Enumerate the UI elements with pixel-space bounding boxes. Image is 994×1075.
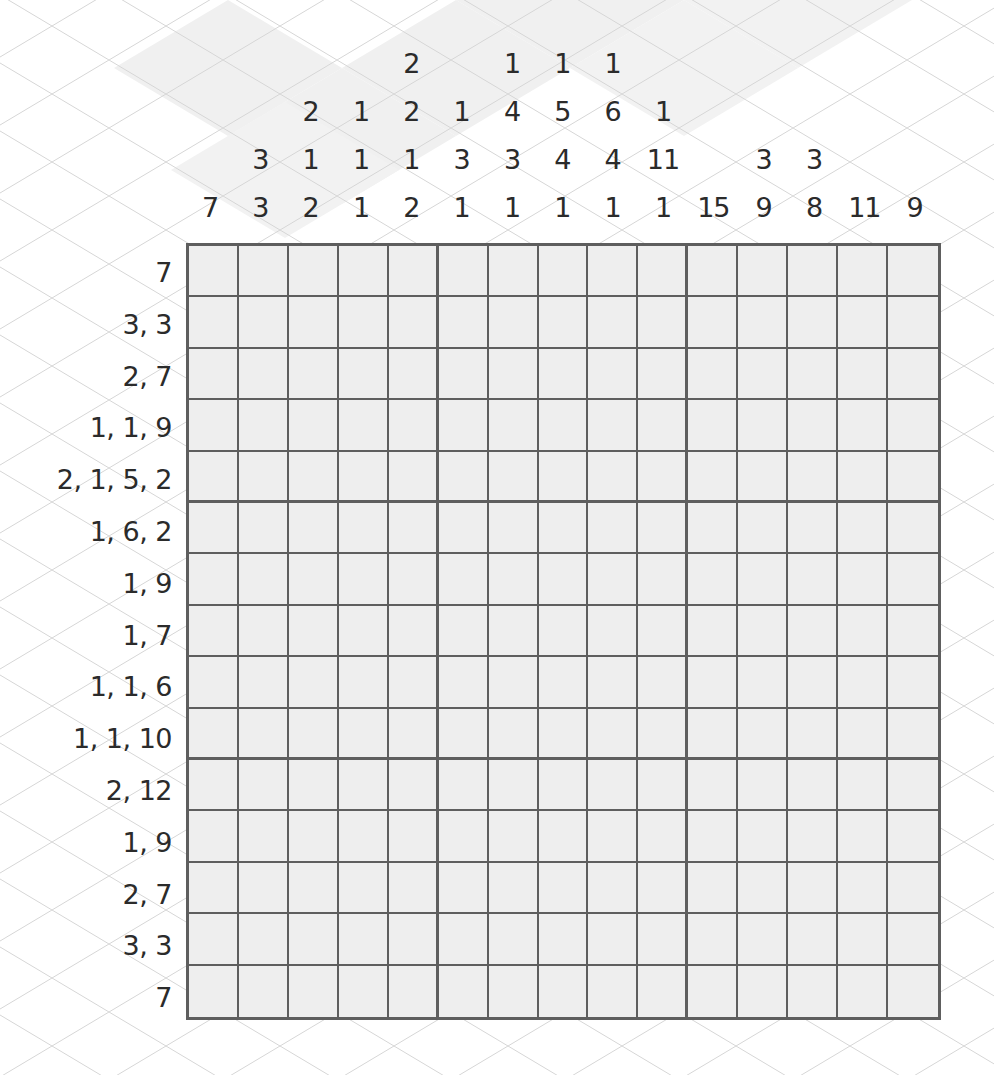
grid-cell-r14-c7[interactable] [489, 914, 539, 965]
grid-cell-r7-c4[interactable] [339, 554, 389, 605]
grid-cell-r2-c7[interactable] [489, 297, 539, 348]
grid-cell-r2-c9[interactable] [588, 297, 638, 348]
grid-cell-r15-c4[interactable] [339, 966, 389, 1017]
grid-cell-r3-c11[interactable] [688, 349, 738, 400]
grid-cell-r13-c15[interactable] [888, 863, 938, 914]
grid-cell-r7-c9[interactable] [588, 554, 638, 605]
grid-cell-r6-c11[interactable] [688, 503, 738, 554]
grid-cell-r10-c10[interactable] [638, 709, 688, 760]
grid-cell-r5-c6[interactable] [439, 452, 489, 503]
grid-cell-r2-c6[interactable] [439, 297, 489, 348]
grid-cell-r11-c5[interactable] [389, 760, 439, 811]
grid-cell-r3-c14[interactable] [838, 349, 888, 400]
grid-cell-r3-c6[interactable] [439, 349, 489, 400]
grid-cell-r2-c10[interactable] [638, 297, 688, 348]
grid-cell-r7-c10[interactable] [638, 554, 688, 605]
grid-cell-r8-c15[interactable] [888, 606, 938, 657]
grid-cell-r1-c8[interactable] [539, 246, 589, 297]
grid-cell-r7-c14[interactable] [838, 554, 888, 605]
grid-cell-r14-c1[interactable] [189, 914, 239, 965]
grid-cell-r10-c9[interactable] [588, 709, 638, 760]
grid-cell-r12-c14[interactable] [838, 811, 888, 862]
grid-cell-r6-c7[interactable] [489, 503, 539, 554]
grid-cell-r14-c6[interactable] [439, 914, 489, 965]
grid-cell-r14-c10[interactable] [638, 914, 688, 965]
grid-cell-r2-c3[interactable] [289, 297, 339, 348]
grid-cell-r1-c13[interactable] [788, 246, 838, 297]
grid-cell-r3-c3[interactable] [289, 349, 339, 400]
grid-cell-r4-c12[interactable] [738, 400, 788, 451]
grid-cell-r6-c4[interactable] [339, 503, 389, 554]
grid-cell-r8-c6[interactable] [439, 606, 489, 657]
grid-cell-r15-c1[interactable] [189, 966, 239, 1017]
grid-cell-r15-c8[interactable] [539, 966, 589, 1017]
grid-cell-r3-c13[interactable] [788, 349, 838, 400]
grid-cell-r2-c14[interactable] [838, 297, 888, 348]
grid-cell-r8-c2[interactable] [239, 606, 289, 657]
grid-cell-r5-c8[interactable] [539, 452, 589, 503]
grid-cell-r14-c15[interactable] [888, 914, 938, 965]
grid-cell-r1-c2[interactable] [239, 246, 289, 297]
grid-cell-r4-c4[interactable] [339, 400, 389, 451]
grid-cell-r5-c1[interactable] [189, 452, 239, 503]
grid-cell-r12-c5[interactable] [389, 811, 439, 862]
grid-cell-r13-c12[interactable] [738, 863, 788, 914]
grid-cell-r1-c12[interactable] [738, 246, 788, 297]
grid-cell-r15-c5[interactable] [389, 966, 439, 1017]
grid-cell-r11-c13[interactable] [788, 760, 838, 811]
grid-cell-r1-c7[interactable] [489, 246, 539, 297]
grid-cell-r11-c10[interactable] [638, 760, 688, 811]
grid-cell-r9-c10[interactable] [638, 657, 688, 708]
grid-cell-r9-c6[interactable] [439, 657, 489, 708]
grid-cell-r1-c3[interactable] [289, 246, 339, 297]
grid-cell-r5-c11[interactable] [688, 452, 738, 503]
grid-cell-r6-c1[interactable] [189, 503, 239, 554]
grid-cell-r4-c3[interactable] [289, 400, 339, 451]
grid-cell-r12-c12[interactable] [738, 811, 788, 862]
grid-cell-r11-c9[interactable] [588, 760, 638, 811]
grid-cell-r13-c10[interactable] [638, 863, 688, 914]
grid-cell-r9-c8[interactable] [539, 657, 589, 708]
grid-cell-r8-c13[interactable] [788, 606, 838, 657]
grid-cell-r2-c8[interactable] [539, 297, 589, 348]
grid-cell-r13-c1[interactable] [189, 863, 239, 914]
grid-cell-r10-c11[interactable] [688, 709, 738, 760]
grid-cell-r12-c11[interactable] [688, 811, 738, 862]
grid-cell-r3-c9[interactable] [588, 349, 638, 400]
grid-cell-r1-c14[interactable] [838, 246, 888, 297]
grid-cell-r8-c7[interactable] [489, 606, 539, 657]
grid-cell-r10-c4[interactable] [339, 709, 389, 760]
grid-cell-r2-c15[interactable] [888, 297, 938, 348]
grid-cell-r5-c12[interactable] [738, 452, 788, 503]
grid-cell-r7-c13[interactable] [788, 554, 838, 605]
grid-cell-r11-c15[interactable] [888, 760, 938, 811]
grid-cell-r15-c7[interactable] [489, 966, 539, 1017]
grid-cell-r15-c14[interactable] [838, 966, 888, 1017]
grid-cell-r11-c7[interactable] [489, 760, 539, 811]
grid-cell-r7-c2[interactable] [239, 554, 289, 605]
grid-cell-r12-c13[interactable] [788, 811, 838, 862]
grid-cell-r7-c12[interactable] [738, 554, 788, 605]
grid-cell-r15-c15[interactable] [888, 966, 938, 1017]
grid-cell-r3-c7[interactable] [489, 349, 539, 400]
grid-cell-r8-c8[interactable] [539, 606, 589, 657]
grid-cell-r9-c1[interactable] [189, 657, 239, 708]
grid-cell-r8-c3[interactable] [289, 606, 339, 657]
grid-cell-r12-c15[interactable] [888, 811, 938, 862]
grid-cell-r7-c1[interactable] [189, 554, 239, 605]
grid-cell-r2-c13[interactable] [788, 297, 838, 348]
grid-cell-r1-c6[interactable] [439, 246, 489, 297]
grid-cell-r9-c13[interactable] [788, 657, 838, 708]
grid-cell-r1-c15[interactable] [888, 246, 938, 297]
grid-cell-r4-c14[interactable] [838, 400, 888, 451]
grid-cell-r14-c2[interactable] [239, 914, 289, 965]
grid-cell-r6-c12[interactable] [738, 503, 788, 554]
grid-cell-r10-c6[interactable] [439, 709, 489, 760]
grid-cell-r11-c3[interactable] [289, 760, 339, 811]
grid-cell-r5-c10[interactable] [638, 452, 688, 503]
grid-cell-r11-c8[interactable] [539, 760, 589, 811]
grid-cell-r4-c10[interactable] [638, 400, 688, 451]
grid-cell-r13-c7[interactable] [489, 863, 539, 914]
grid-cell-r9-c5[interactable] [389, 657, 439, 708]
grid-cell-r7-c6[interactable] [439, 554, 489, 605]
